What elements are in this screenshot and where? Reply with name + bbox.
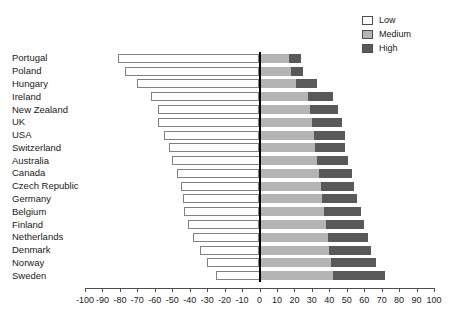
- bar-segment-low: [172, 156, 259, 165]
- zero-axis-line: [259, 52, 261, 282]
- bar-segment-high: [321, 182, 354, 191]
- bar-segment-low: [177, 169, 259, 178]
- bar-segment-low: [216, 271, 260, 280]
- bar-segment-high: [312, 118, 342, 127]
- bar-segment-medium: [260, 169, 319, 178]
- x-axis-tick-label: -20: [218, 295, 231, 305]
- x-axis-tick-label: -10: [236, 295, 249, 305]
- y-axis-label: Denmark: [12, 245, 74, 255]
- bar-segment-medium: [260, 246, 330, 255]
- x-axis-tick: [329, 288, 330, 292]
- x-axis-tick: [102, 288, 103, 292]
- y-axis-label: Poland: [12, 66, 74, 76]
- x-axis-tick: [347, 288, 348, 292]
- y-axis-label: UK: [12, 117, 74, 127]
- bar-segment-medium: [260, 258, 332, 267]
- bar-segment-high: [315, 143, 345, 152]
- y-axis-label: Australia: [12, 156, 74, 166]
- y-axis-label: Belgium: [12, 207, 74, 217]
- bar-segment-high: [291, 67, 303, 76]
- bar-segment-medium: [260, 118, 312, 127]
- bar-segment-high: [314, 131, 345, 140]
- bar-segment-high: [324, 207, 361, 216]
- y-axis-label: Portugal: [12, 53, 74, 63]
- y-axis-label: Hungary: [12, 79, 74, 89]
- y-axis-label: Switzerland: [12, 143, 74, 153]
- bar-segment-low: [207, 258, 259, 267]
- y-axis-label: Netherlands: [12, 232, 74, 242]
- x-axis: -100-90-80-70-60-50-40-30-20-10010203040…: [85, 288, 434, 318]
- x-axis-tick-label: -90: [96, 295, 109, 305]
- x-axis-tick: [225, 288, 226, 292]
- x-axis-tick: [172, 288, 173, 292]
- x-axis-tick: [382, 288, 383, 292]
- legend-swatch-medium-icon: [362, 30, 373, 39]
- bar-segment-low: [181, 182, 260, 191]
- x-axis-tick-label: 70: [377, 295, 387, 305]
- x-axis-tick-label: 0: [257, 295, 262, 305]
- bar-segment-medium: [260, 233, 328, 242]
- chart-legend: Low Medium High: [362, 14, 446, 56]
- y-axis-label: Ireland: [12, 92, 74, 102]
- x-axis-tick-label: 40: [324, 295, 334, 305]
- bar-segment-medium: [260, 79, 297, 88]
- x-axis-tick: [260, 288, 261, 292]
- chart-container: Low Medium High PortugalPolandHungaryIre…: [0, 0, 450, 322]
- legend-label-low: Low: [379, 15, 396, 25]
- x-axis-tick: [364, 288, 365, 292]
- bar-segment-high: [310, 105, 338, 114]
- bar-segment-medium: [260, 143, 316, 152]
- legend-label-medium: Medium: [379, 29, 411, 39]
- bar-segment-medium: [260, 194, 323, 203]
- x-axis-tick: [434, 288, 435, 292]
- x-axis-tick-label: 20: [289, 295, 299, 305]
- legend-swatch-low-icon: [362, 16, 373, 25]
- bar-segment-medium: [260, 207, 325, 216]
- bar-segment-medium: [260, 156, 318, 165]
- bar-segment-low: [158, 118, 259, 127]
- y-axis-label: Czech Republic: [12, 181, 74, 191]
- bar-segment-low: [193, 233, 259, 242]
- bar-segment-high: [319, 169, 352, 178]
- x-axis-tick-label: -100: [76, 295, 94, 305]
- x-axis-tick: [120, 288, 121, 292]
- x-axis-tick-label: 100: [426, 295, 441, 305]
- bar-segment-high: [328, 233, 368, 242]
- x-axis-tick: [277, 288, 278, 292]
- legend-item-low: Low: [362, 14, 446, 26]
- x-axis-tick: [137, 288, 138, 292]
- x-axis-tick: [85, 288, 86, 292]
- x-axis-tick-label: 60: [359, 295, 369, 305]
- y-axis-label: Germany: [12, 194, 74, 204]
- bar-segment-high: [329, 246, 371, 255]
- bar-segment-low: [125, 67, 259, 76]
- y-axis-label: USA: [12, 130, 74, 140]
- x-axis-tick-label: -40: [183, 295, 196, 305]
- x-axis-tick-label: -70: [131, 295, 144, 305]
- x-axis-tick-label: 50: [342, 295, 352, 305]
- x-axis-tick: [207, 288, 208, 292]
- bar-segment-high: [289, 54, 301, 63]
- bar-segment-high: [326, 220, 364, 229]
- x-axis-tick: [417, 288, 418, 292]
- x-axis-tick-label: -80: [113, 295, 126, 305]
- bar-segment-low: [151, 92, 259, 101]
- x-axis-tick-label: -30: [201, 295, 214, 305]
- bar-segment-medium: [260, 105, 311, 114]
- plot-area: [85, 52, 434, 282]
- legend-item-medium: Medium: [362, 28, 446, 40]
- x-axis-tick: [399, 288, 400, 292]
- bar-segment-low: [183, 194, 260, 203]
- x-axis-tick: [190, 288, 191, 292]
- bar-segment-medium: [260, 182, 321, 191]
- bar-segment-medium: [260, 54, 290, 63]
- y-axis-label: Canada: [12, 168, 74, 178]
- bar-segment-low: [169, 143, 260, 152]
- x-axis-tick: [294, 288, 295, 292]
- bar-segment-high: [322, 194, 357, 203]
- bar-segment-high: [331, 258, 376, 267]
- y-axis-label: New Zealand: [12, 105, 74, 115]
- bar-segment-medium: [260, 131, 314, 140]
- y-axis-labels: PortugalPolandHungaryIrelandNew ZealandU…: [0, 52, 80, 282]
- bar-segment-high: [296, 79, 317, 88]
